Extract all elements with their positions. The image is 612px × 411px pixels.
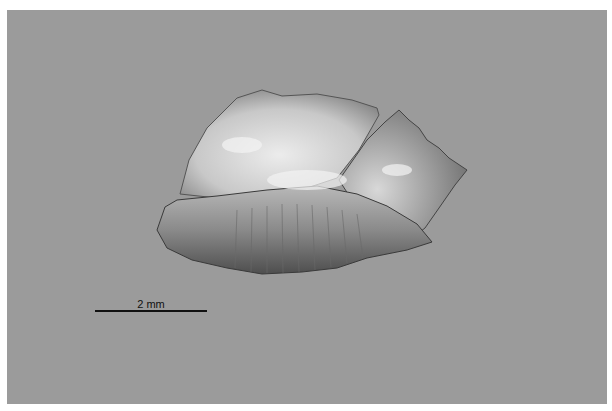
scale-bar-label: 2 mm <box>95 298 207 310</box>
specimen-image <box>7 10 607 404</box>
specimen-photo: 2 mm <box>7 10 607 404</box>
scale-bar-line <box>95 310 207 312</box>
